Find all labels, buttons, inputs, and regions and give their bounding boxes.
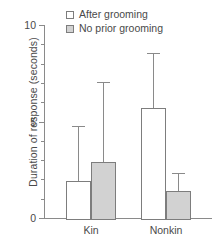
error-bar-cap-kin-after-grooming (72, 126, 85, 127)
error-bar-stem-kin-after-grooming (78, 127, 79, 181)
plot-area: 0 5 10 Kin (44, 20, 212, 220)
y-minor-tick-2 (41, 179, 45, 180)
y-minor-tick-3 (41, 160, 45, 161)
x-axis-label-kin: Kin (83, 224, 98, 236)
y-minor-tick-8 (41, 64, 45, 65)
error-bar-stem-nonkin-no-prior-grooming (178, 174, 179, 191)
y-tick-label-10: 10 (24, 19, 36, 31)
y-minor-tick-9 (41, 44, 45, 45)
y-tick-0: 0 (39, 218, 45, 219)
x-axis-label-nonkin: Nonkin (150, 224, 183, 236)
y-minor-tick-1 (41, 199, 45, 200)
y-minor-tick-7 (41, 83, 45, 84)
error-bar-cap-kin-no-prior-grooming (97, 82, 110, 83)
error-bar-stem-kin-no-prior-grooming (103, 83, 104, 162)
bar-kin-after-grooming (66, 181, 91, 220)
error-bar-cap-nonkin-no-prior-grooming (172, 173, 185, 174)
y-tick-label-5: 5 (30, 116, 36, 128)
y-axis-title: Duration of response (seconds) (27, 17, 39, 207)
y-tick-10: 10 (39, 25, 45, 26)
y-minor-tick-6 (41, 102, 45, 103)
y-minor-tick-4 (41, 141, 45, 142)
error-bar-cap-nonkin-after-grooming (147, 53, 160, 54)
bar-nonkin-no-prior-grooming (166, 191, 191, 220)
bar-nonkin-after-grooming (141, 108, 166, 220)
error-bar-stem-nonkin-after-grooming (153, 54, 154, 108)
bar-chart-figure: Duration of response (seconds) After gro… (0, 0, 214, 248)
bar-kin-no-prior-grooming (91, 162, 116, 220)
y-tick-label-0: 0 (30, 212, 36, 224)
legend-swatch-open-icon (66, 11, 74, 19)
y-tick-5: 5 (39, 122, 45, 123)
